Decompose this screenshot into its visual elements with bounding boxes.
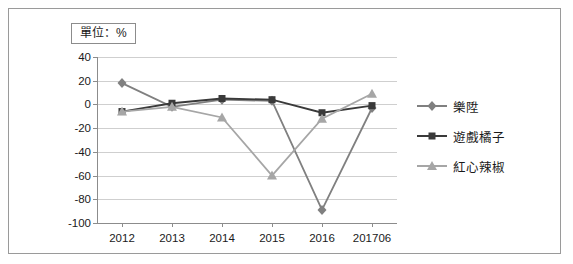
data-point-marker: [318, 205, 327, 215]
x-axis-tick-label: 201706: [342, 232, 402, 244]
data-point-marker: [429, 133, 436, 140]
plot-area: 40200-20-40-60-80-1002012201320142015201…: [97, 57, 397, 223]
chart-legend: 樂陞遊戲橘子紅心辣椒: [417, 91, 505, 181]
legend-item[interactable]: 紅心辣椒: [417, 151, 505, 181]
x-axis-line: [97, 223, 397, 224]
data-point-marker: [367, 89, 377, 98]
data-point-marker: [369, 102, 376, 109]
legend-item[interactable]: 樂陞: [417, 91, 505, 121]
data-point-marker: [269, 96, 276, 103]
chart-frame: 單位：% 40200-20-40-60-80-10020122013201420…: [8, 8, 561, 254]
unit-note: 單位：%: [71, 23, 136, 44]
series-canvas: [97, 57, 397, 223]
data-point-marker: [427, 161, 437, 170]
y-axis-tick-label: 20: [53, 76, 91, 86]
legend-label: 遊戲橘子: [453, 127, 505, 146]
data-point-marker: [428, 101, 437, 111]
legend-item[interactable]: 遊戲橘子: [417, 121, 505, 151]
y-axis-tick-label: -60: [53, 171, 91, 181]
legend-marker-triangle-icon: [417, 160, 447, 172]
x-axis-tickmark: [172, 223, 173, 227]
x-axis-tickmark: [272, 223, 273, 227]
x-axis-tickmark: [222, 223, 223, 227]
x-axis-tickmark: [372, 223, 373, 227]
x-axis-tickmark: [122, 223, 123, 227]
legend-label: 樂陞: [453, 97, 479, 116]
y-axis-tick-label: -20: [53, 123, 91, 133]
y-axis-tick-label: 40: [53, 52, 91, 62]
x-axis-tickmark: [322, 223, 323, 227]
y-axis-tick-label: -40: [53, 147, 91, 157]
legend-label: 紅心辣椒: [453, 157, 505, 176]
y-axis-tick-label: -100: [53, 218, 91, 228]
data-point-marker: [118, 78, 127, 88]
y-axis-tick-label: -80: [53, 194, 91, 204]
y-axis-tick-label: 0: [53, 99, 91, 109]
data-point-marker: [219, 95, 226, 102]
legend-marker-square-icon: [417, 130, 447, 142]
legend-marker-diamond-icon: [417, 100, 447, 112]
